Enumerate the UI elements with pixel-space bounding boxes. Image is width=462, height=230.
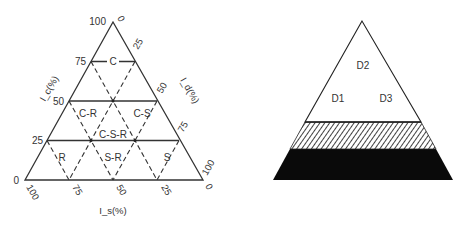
region-s-r: S-R — [104, 152, 121, 163]
svg-text:75: 75 — [70, 183, 85, 198]
region-labels: C C-R C-S C-S-R R S-R S — [58, 56, 170, 163]
svg-text:100: 100 — [199, 158, 216, 177]
region-d3: D3 — [380, 93, 393, 104]
region-c-s: C-S — [133, 108, 151, 119]
svg-text:50: 50 — [53, 96, 65, 107]
hatched-band — [290, 122, 436, 149]
region-d2: D2 — [357, 60, 370, 71]
svg-text:100: 100 — [24, 183, 41, 202]
svg-text:25: 25 — [159, 183, 174, 198]
axis-title-right: I_d(%) — [178, 76, 202, 106]
region-c-s-r: C-S-R — [99, 129, 127, 140]
svg-text:0: 0 — [13, 175, 19, 186]
svg-text:100: 100 — [89, 16, 106, 27]
region-s: S — [164, 152, 171, 163]
svg-text:50: 50 — [114, 183, 129, 198]
svg-text:50: 50 — [154, 80, 169, 95]
svg-text:0: 0 — [115, 14, 127, 24]
top-region — [305, 21, 421, 122]
figure-canvas: C C-R C-S C-S-R R S-R S 100 75 50 25 0 0… — [0, 0, 462, 230]
solid-band — [273, 149, 453, 180]
bottom-axis-ticks: 100 75 50 25 0 — [24, 182, 215, 202]
svg-text:0: 0 — [203, 182, 215, 192]
region-c-r: C-R — [79, 108, 97, 119]
ternary-diagram: C C-R C-S C-S-R R S-R S 100 75 50 25 0 0… — [13, 14, 216, 217]
svg-text:75: 75 — [175, 119, 190, 134]
region-d1: D1 — [332, 93, 345, 104]
svg-text:25: 25 — [32, 135, 44, 146]
region-r: R — [58, 152, 65, 163]
axis-title-bottom: I_s(%) — [99, 205, 126, 216]
layered-triangle: D2 D1 D3 — [273, 21, 453, 180]
svg-text:25: 25 — [130, 36, 145, 51]
svg-text:75: 75 — [75, 56, 87, 67]
region-c: C — [109, 56, 116, 67]
